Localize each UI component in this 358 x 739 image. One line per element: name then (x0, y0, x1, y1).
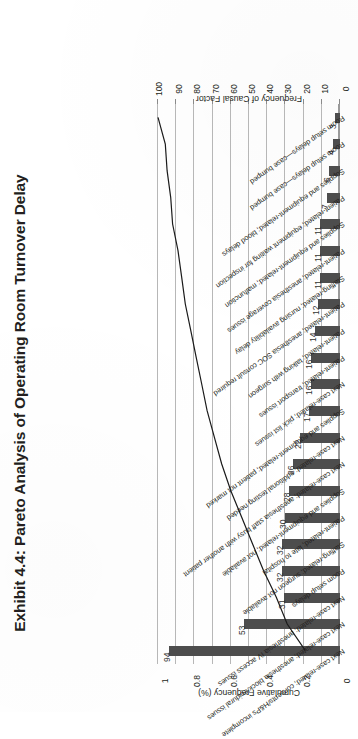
frequency-tick-label: 80 (193, 84, 203, 93)
cumulative-frequency-line (158, 104, 340, 664)
frequency-tick-label: 50 (247, 84, 257, 93)
exhibit-title-text: Exhibit 4.4: Pareto Analysis of Operatin… (11, 174, 29, 631)
frequency-tick-label: 0 (341, 87, 351, 92)
cumulative-tick-label: 0.4 (265, 675, 275, 687)
cumulative-tick-label: 0.8 (192, 675, 202, 687)
exhibit-title: Exhibit 4.4: Pareto Analysis of Operatin… (2, 12, 38, 712)
frequency-tick-label: 20 (302, 84, 312, 93)
frequency-tick-label: 40 (265, 84, 275, 93)
cumulative-tick-label: 0.6 (229, 675, 239, 687)
frequency-axis-title: Frequency of Causal Factor (158, 94, 340, 104)
cumulative-tick-label: 0 (342, 679, 352, 684)
frequency-tick-label: 60 (229, 84, 239, 93)
frequency-axis-title-text: Frequency of Causal Factor (196, 94, 302, 104)
frequency-tick-label: 90 (174, 84, 184, 93)
pareto-plot-area: 94Next case-related; consents/H&Ps incom… (158, 104, 340, 664)
frequency-tick-label: 10 (320, 84, 330, 93)
cumulative-tick-label: 0.2 (302, 675, 312, 687)
frequency-tick-label: 30 (284, 84, 294, 93)
frequency-tick-label: 70 (211, 84, 221, 93)
cumulative-tick-label: 1 (160, 679, 170, 684)
